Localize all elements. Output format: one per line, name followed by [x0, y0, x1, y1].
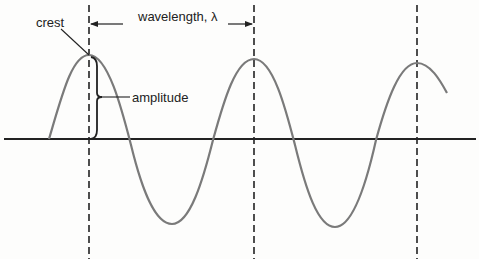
arrowhead-left-icon: [90, 21, 98, 27]
crest-label: crest: [36, 16, 64, 29]
sine-wave: [49, 55, 447, 227]
amplitude-brace: [91, 57, 102, 139]
wave-svg: [0, 0, 479, 259]
wavelength-label: wavelength, λ: [138, 10, 218, 23]
arrowhead-right-icon: [245, 21, 253, 27]
crest-pointer: [61, 29, 89, 55]
amplitude-label: amplitude: [132, 91, 188, 104]
wave-diagram: crest wavelength, λ amplitude: [0, 0, 479, 259]
